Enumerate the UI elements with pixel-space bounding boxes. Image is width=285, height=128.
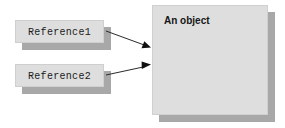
arrow-reference2-head bbox=[142, 62, 151, 69]
reference1-label: Reference1 bbox=[16, 26, 103, 37]
object-box-label: An object bbox=[164, 15, 210, 26]
arrow-reference1-line bbox=[106, 31, 145, 45]
arrow-reference2-line bbox=[106, 67, 145, 75]
object-box[interactable]: An object bbox=[152, 5, 268, 115]
reference1-box[interactable]: Reference1 bbox=[15, 20, 104, 43]
arrow-reference1-to-object bbox=[106, 31, 151, 48]
arrow-reference1-head bbox=[142, 41, 152, 48]
diagram-canvas: An object Reference1 Reference2 bbox=[0, 0, 285, 128]
reference2-box[interactable]: Reference2 bbox=[15, 64, 104, 87]
reference2-label: Reference2 bbox=[16, 70, 103, 81]
arrow-reference2-to-object bbox=[106, 62, 151, 76]
